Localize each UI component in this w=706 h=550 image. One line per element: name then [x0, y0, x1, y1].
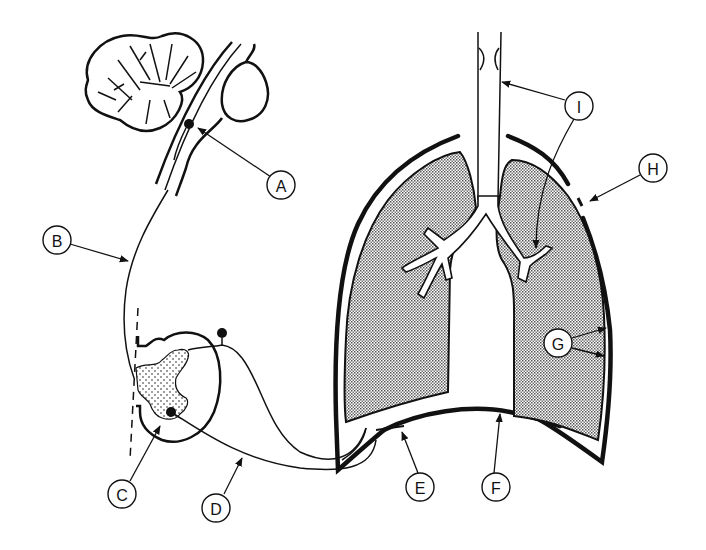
- spinal-cord-section: [130, 308, 242, 460]
- pons: [222, 44, 268, 121]
- svg-text:B: B: [52, 233, 63, 250]
- lung-right: [497, 160, 605, 440]
- svg-text:A: A: [276, 178, 287, 195]
- svg-text:E: E: [415, 480, 426, 497]
- svg-text:C: C: [116, 487, 128, 504]
- medulla-front: [176, 118, 222, 196]
- lung-left: [345, 152, 477, 422]
- label-B: B: [43, 226, 71, 254]
- brainstem-wall-left: [156, 42, 232, 184]
- label-C: C: [108, 480, 136, 508]
- label-D: D: [202, 494, 230, 522]
- label-H: H: [639, 154, 667, 182]
- label-E: E: [406, 473, 434, 501]
- respiratory-pathway-diagram: A B C D E F G H I: [0, 0, 706, 550]
- label-G: G: [544, 329, 572, 357]
- gray-matter: [136, 349, 189, 419]
- svg-text:I: I: [577, 99, 581, 116]
- brainstem-group: [86, 34, 268, 196]
- label-F: F: [482, 473, 510, 501]
- descending-spinal-tract: [124, 190, 168, 378]
- svg-text:G: G: [552, 336, 564, 353]
- trachea: [478, 32, 501, 200]
- midline-dashed: [130, 308, 138, 460]
- label-I: I: [565, 92, 593, 120]
- cerebellum-folia: [98, 44, 196, 124]
- svg-text:H: H: [647, 161, 659, 178]
- svg-text:D: D: [210, 501, 222, 518]
- svg-text:F: F: [491, 480, 501, 497]
- label-A: A: [267, 171, 295, 199]
- respiratory-neuron-dot: [184, 119, 194, 129]
- dorsal-root-ganglion-dot: [217, 328, 227, 338]
